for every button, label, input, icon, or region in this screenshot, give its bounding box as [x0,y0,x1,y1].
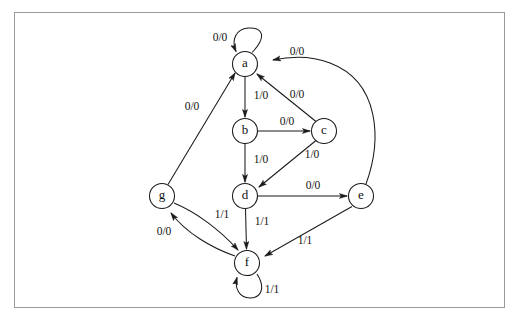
edge-e-f-path [265,207,352,257]
edge-f-f-label: 1/1 [265,283,280,295]
edge-g-a: 0/0 [168,73,235,185]
edge-g-a-path [168,73,235,185]
node-a[interactable]: a [233,52,258,77]
edge-b-c: 0/0 [258,115,311,131]
node-d-label: d [242,187,249,202]
edge-g-f-label: 1/1 [215,208,230,220]
edge-d-e-label: 0/0 [306,179,321,191]
edge-b-c-label: 0/0 [280,115,295,127]
node-f-label: f [245,254,250,269]
edge-f-f-path [236,274,261,298]
node-c[interactable]: c [312,119,337,144]
node-a-label: a [242,55,248,70]
edge-c-d-label: 1/0 [305,148,320,160]
edge-a-b-label: 1/0 [254,89,269,101]
node-b[interactable]: b [233,119,258,144]
node-c-label: c [321,122,327,137]
figure-page: 0/0 1/0 0/0 1/0 0/0 1/0 0/ [0,0,518,321]
node-b-label: b [242,122,249,137]
node-e[interactable]: e [349,184,374,209]
edge-e-f: 1/1 [265,207,352,257]
node-e-label: e [358,187,364,202]
node-g[interactable]: g [150,184,175,209]
edge-e-f-label: 1/1 [298,234,313,246]
edge-g-a-label: 0/0 [185,100,200,112]
edge-d-f-path [246,209,247,250]
edge-d-f: 1/1 [246,209,270,250]
state-diagram: 0/0 1/0 0/0 1/0 0/0 1/0 0/ [0,0,518,321]
node-d[interactable]: d [233,184,258,209]
edge-f-g-label: 0/0 [157,225,172,237]
edge-b-d-label: 1/0 [254,153,269,165]
node-g-label: g [159,187,166,202]
node-f[interactable]: f [235,251,260,276]
edge-c-a-label: 0/0 [290,88,305,100]
edge-d-e: 0/0 [258,179,348,196]
edge-e-a-label: 0/0 [290,45,305,57]
edge-d-f-label: 1/1 [255,215,270,227]
edge-a-a-path [234,28,261,53]
edge-b-d: 1/0 [245,144,269,183]
edge-f-f: 1/1 [236,274,279,298]
edge-a-a: 0/0 [213,28,262,53]
edge-a-b: 1/0 [245,77,269,118]
edge-a-a-label: 0/0 [213,31,228,43]
